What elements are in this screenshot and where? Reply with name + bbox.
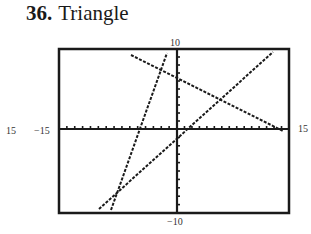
steep-line — [111, 53, 167, 210]
graph-lines — [99, 52, 283, 210]
graph-frame — [59, 49, 289, 213]
axes — [59, 49, 289, 213]
falling-line — [131, 55, 283, 131]
graph-plot — [0, 0, 311, 234]
rising-line — [99, 52, 273, 209]
